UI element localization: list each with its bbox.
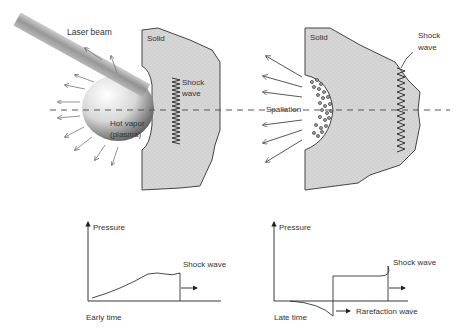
late-shock-label: Shock wave xyxy=(393,258,437,267)
early-ylabel: Pressure xyxy=(93,223,126,232)
chart-early-time: Pressure Shock wave Early time xyxy=(86,222,227,322)
laser-beam xyxy=(13,12,150,97)
shock-label-left-2: wave xyxy=(181,89,201,98)
rarefaction-label: Rarefaction wave xyxy=(356,307,418,316)
left-panel: Laser beam Solid Shock wave Hot vapor (p… xyxy=(13,12,220,190)
solid-label-left: Solid xyxy=(147,34,165,43)
shock-label-right-1: Shock xyxy=(418,31,441,40)
shock-label-right-2: wave xyxy=(417,43,437,52)
late-title: Late time xyxy=(274,313,307,322)
laser-spallation-diagram: Laser beam Solid Shock wave Hot vapor (p… xyxy=(0,0,457,335)
vapor-label-1: Hot vapor xyxy=(110,119,145,128)
vapor-label-2: (plasma) xyxy=(110,130,141,139)
laser-beam-label: Laser beam xyxy=(67,27,112,37)
solid-label-right: Solid xyxy=(310,33,328,42)
late-ylabel: Pressure xyxy=(279,223,312,232)
shock-label-left-1: Shock xyxy=(182,78,205,87)
chart-late-time: Pressure Shock wave Rarefaction wave Lat… xyxy=(274,222,437,322)
shock-leader-line xyxy=(401,52,413,68)
early-title: Early time xyxy=(86,313,122,322)
early-shock-label: Shock wave xyxy=(183,260,227,269)
early-pressure-curve xyxy=(92,273,180,301)
right-panel: Solid Shock wave Spallation xyxy=(263,28,441,190)
